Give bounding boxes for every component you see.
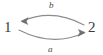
edge-a-arrowhead-icon bbox=[78, 29, 85, 36]
edge-b-arrowhead-icon bbox=[21, 18, 28, 25]
edge-b-path bbox=[22, 15, 84, 25]
diagram-canvas: 1 2 b a bbox=[0, 0, 103, 55]
edge-a-path bbox=[19, 30, 84, 39]
edge-label-a: a bbox=[48, 45, 53, 54]
edge-label-b: b bbox=[49, 1, 54, 10]
node-label-1: 1 bbox=[4, 20, 12, 35]
node-label-2: 2 bbox=[88, 20, 96, 35]
